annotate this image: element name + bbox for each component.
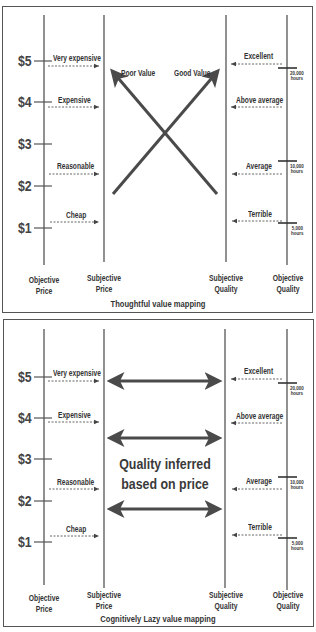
price-cat-reasonable: Reasonable [57, 161, 94, 171]
axis-label-subjective-quality: SubjectiveQuality [202, 590, 250, 612]
quality-cat-excellent: Excellent [244, 51, 273, 61]
price-tick-1: $1 [18, 533, 32, 550]
hours-10000: 10,000hours [290, 480, 304, 490]
hours-20000: 20,000hours [290, 386, 304, 396]
panel1-value-arrows [113, 72, 217, 194]
price-tick-3: $3 [18, 135, 32, 152]
axis-label-subjective-price: SubjectivePrice [80, 590, 128, 612]
price-tick-5: $5 [18, 368, 32, 385]
quality-cat-above-average: Above average [236, 411, 283, 421]
axis-label-objective-price: ObjectivePrice [20, 593, 68, 615]
panel1-quality-dashes [231, 64, 282, 221]
good-value-label: Good Value [174, 68, 210, 78]
panel1-price-dashes [48, 66, 99, 222]
quality-cat-above-average: Above average [236, 95, 283, 105]
quality-cat-average: Average [246, 476, 272, 486]
axis-label-objective-price: ObjectivePrice [20, 275, 68, 297]
quality-inferred-text: Quality inferredbased on price [101, 454, 229, 494]
price-cat-very-expensive: Very expensive [53, 368, 101, 378]
hours-5000: 5,000hours [291, 226, 304, 236]
price-tick-5: $5 [18, 52, 32, 69]
hours-20000: 20,000hours [290, 71, 304, 81]
panel1-caption: Thoughtful value mapping [78, 298, 238, 309]
price-tick-2: $2 [18, 492, 32, 509]
panel2-caption: Cognitively Lazy value mapping [78, 613, 238, 624]
quality-cat-terrible: Terrible [248, 522, 272, 532]
price-cat-expensive: Expensive [58, 95, 91, 105]
quality-cat-excellent: Excellent [244, 366, 273, 376]
panel1-price-ticks [34, 61, 52, 228]
price-cat-very-expensive: Very expensive [53, 53, 101, 63]
quality-cat-terrible: Terrible [248, 209, 272, 219]
axis-label-subjective-quality: SubjectiveQuality [202, 273, 250, 295]
price-tick-3: $3 [18, 450, 32, 467]
poor-value-label: Poor Value [121, 68, 155, 78]
quality-cat-average: Average [246, 161, 272, 171]
axis-label-objective-quality: ObjectiveQuality [264, 590, 312, 612]
price-cat-reasonable: Reasonable [57, 477, 94, 487]
price-cat-expensive: Expensive [58, 410, 91, 420]
price-cat-cheap: Cheap [66, 524, 86, 534]
hours-5000: 5,000hours [291, 541, 304, 551]
price-tick-2: $2 [18, 177, 32, 194]
axis-label-subjective-price: SubjectivePrice [80, 273, 128, 295]
price-tick-4: $4 [18, 409, 32, 426]
price-tick-4: $4 [18, 93, 32, 110]
price-cat-cheap: Cheap [66, 210, 86, 220]
hours-10000: 10,000hours [290, 164, 304, 174]
axis-label-objective-quality: ObjectiveQuality [264, 273, 312, 295]
price-tick-1: $1 [18, 219, 32, 236]
